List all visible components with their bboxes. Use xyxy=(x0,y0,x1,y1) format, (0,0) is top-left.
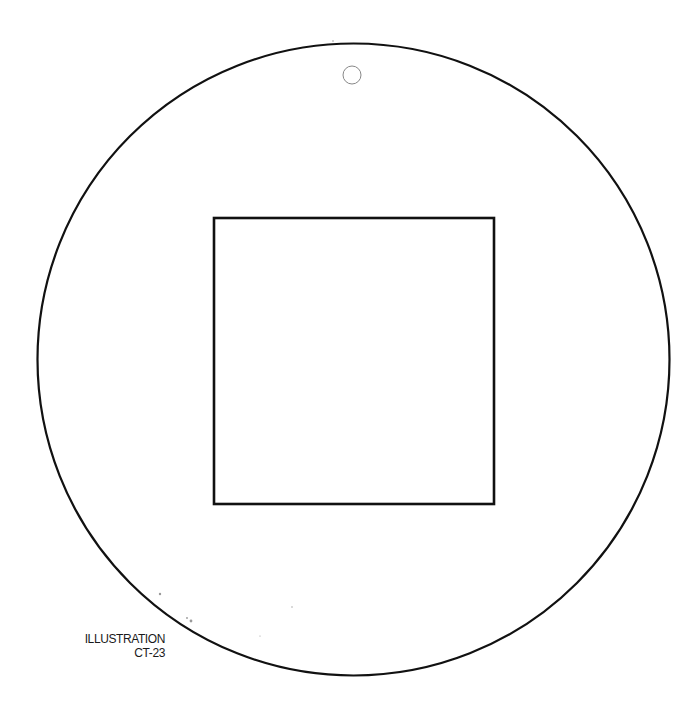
outer-circle xyxy=(38,44,670,676)
caption-title: ILLUSTRATION xyxy=(60,632,165,646)
inner-square xyxy=(214,218,494,504)
illustration-drawing xyxy=(0,0,699,720)
caption-code: CT-23 xyxy=(60,646,165,660)
scan-specks xyxy=(159,40,334,636)
hanging-hole xyxy=(343,66,361,84)
illustration-caption: ILLUSTRATION CT-23 xyxy=(60,632,165,660)
